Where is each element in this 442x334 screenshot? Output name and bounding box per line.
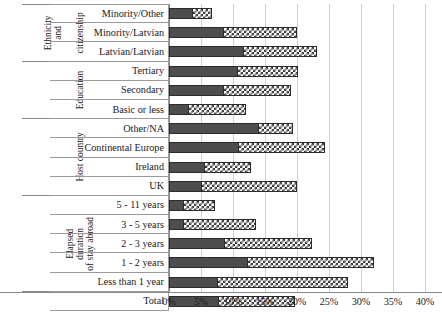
category-label: 5 - 11 years — [50, 196, 169, 215]
gridline-40 — [425, 4, 426, 292]
stacked-bar — [169, 219, 256, 230]
bar-segment-hatched — [237, 66, 298, 77]
category-label: Basic or less — [50, 100, 169, 119]
category-label-column: Minority/OtherMinority/LatvianLatvian/La… — [50, 4, 169, 311]
bar-row — [169, 234, 425, 253]
x-tick-label: 10% — [224, 296, 243, 307]
bar-segment-hatched — [247, 257, 374, 268]
bar-segment-hatched — [238, 142, 325, 153]
bar-segment-hatched — [258, 123, 293, 134]
category-label: Continental Europe — [50, 138, 169, 157]
bar-segment-dark — [169, 46, 244, 57]
bar-segment-dark — [169, 27, 224, 38]
bar-segment-dark — [169, 123, 259, 134]
x-tick-label: 0% — [162, 296, 176, 307]
stacked-bar — [169, 46, 317, 57]
bar-row — [169, 23, 425, 42]
bar-row — [169, 196, 425, 215]
stacked-bar — [169, 104, 246, 115]
stacked-bar — [169, 277, 348, 288]
stacked-bar — [169, 162, 251, 173]
bar-segment-dark — [169, 257, 248, 268]
chart-container: Ethnicity and citizenship Education Host… — [0, 0, 442, 334]
bar-row — [169, 100, 425, 119]
bar-segment-dark — [169, 85, 224, 96]
bar-segment-dark — [169, 238, 225, 249]
category-label: Tertiary — [50, 62, 169, 81]
bar-row — [169, 81, 425, 100]
category-label: 1 - 2 years — [50, 253, 169, 272]
group-column-outer: Ethnicity and — [22, 0, 50, 294]
bar-row — [169, 119, 425, 138]
bar-row — [169, 253, 425, 272]
stacked-bar — [169, 200, 215, 211]
stacked-bar — [169, 66, 298, 77]
bar-segment-hatched — [183, 200, 215, 211]
category-label: 2 - 3 years — [50, 234, 169, 253]
stacked-bar — [169, 85, 291, 96]
bar-row — [169, 62, 425, 81]
bar-segment-hatched — [217, 277, 348, 288]
category-label: Other/NA — [50, 119, 169, 138]
bar-row — [169, 42, 425, 61]
bar-segment-dark — [169, 219, 184, 230]
x-tick-label: 15% — [256, 296, 275, 307]
bar-segment-hatched — [188, 104, 246, 115]
stacked-bar — [169, 27, 297, 38]
bar-segment-hatched — [204, 162, 251, 173]
bar-segment-dark — [169, 162, 205, 173]
bar-segment-hatched — [192, 8, 211, 19]
stacked-bar — [169, 238, 312, 249]
x-tick-label: 35% — [384, 296, 403, 307]
bar-segment-hatched — [223, 27, 297, 38]
bar-segment-dark — [169, 142, 239, 153]
bar-segment-hatched — [201, 181, 297, 192]
bar-segment-dark — [169, 181, 202, 192]
stacked-bar — [169, 123, 293, 134]
bar-segment-dark — [169, 66, 238, 77]
bar-row — [169, 138, 425, 157]
category-label: UK — [50, 177, 169, 196]
category-label: Minority/Other — [50, 4, 169, 23]
bar-segment-hatched — [183, 219, 256, 230]
bar-row — [169, 273, 425, 292]
x-tick-label: 5% — [194, 296, 208, 307]
bar-segment-dark — [169, 277, 218, 288]
category-label: Less than 1 year — [50, 273, 169, 292]
bar-row — [169, 215, 425, 234]
category-label: 3 - 5 years — [50, 215, 169, 234]
x-tick-label: 25% — [320, 296, 339, 307]
plot-area — [169, 4, 425, 292]
category-label: Secondary — [50, 81, 169, 100]
bar-row — [169, 158, 425, 177]
bar-segment-hatched — [223, 85, 291, 96]
category-label: Ireland — [50, 158, 169, 177]
bar-row — [169, 4, 425, 23]
bar-segment-dark — [169, 104, 189, 115]
category-label: Total — [50, 292, 169, 311]
stacked-bar — [169, 181, 297, 192]
x-tick-label: 30% — [352, 296, 371, 307]
bar-segment-hatched — [224, 238, 312, 249]
stacked-bar — [169, 142, 325, 153]
stacked-bar — [169, 8, 212, 19]
x-tick-label: 20% — [288, 296, 307, 307]
bar-row — [169, 177, 425, 196]
category-label: Minority/Latvian — [50, 23, 169, 42]
bar-segment-hatched — [243, 46, 317, 57]
bar-segment-dark — [169, 8, 193, 19]
stacked-bar — [169, 257, 374, 268]
category-label: Latvian/Latvian — [50, 42, 169, 61]
x-tick-label: 40% — [416, 296, 435, 307]
x-axis-tick-labels: 0%5%10%15%20%25%30%35%40% — [169, 296, 425, 316]
bar-segment-dark — [169, 200, 184, 211]
